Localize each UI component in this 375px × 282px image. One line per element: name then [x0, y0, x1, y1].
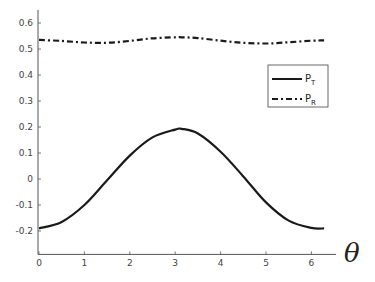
- x-tick-label: 5: [263, 258, 269, 268]
- y-tick-label: -0.1: [15, 200, 33, 210]
- x-axis-label: θ: [344, 238, 360, 268]
- x-tick-label: 4: [218, 258, 224, 268]
- x-tick-label: 3: [172, 258, 178, 268]
- y-tick-label: 0: [27, 174, 33, 184]
- y-tick-label: 0.2: [19, 122, 33, 132]
- x-tick-label: 0: [36, 258, 42, 268]
- y-tick-label: 0.6: [19, 18, 34, 28]
- y-tick-label: 0.1: [19, 148, 33, 158]
- legend-box: [268, 65, 328, 107]
- series-line-p-t: [39, 128, 324, 228]
- axes: [38, 10, 336, 254]
- x-tick-label: 1: [82, 258, 88, 268]
- x-tick-label: 2: [127, 258, 133, 268]
- y-tick-label: 0.5: [19, 44, 33, 54]
- line-chart: -0.2-0.100.10.20.30.40.50.60123456 θ PTP…: [0, 0, 375, 282]
- legend: PTPR: [268, 65, 328, 107]
- series-line-p-r: [39, 37, 324, 43]
- y-tick-label: 0.4: [19, 70, 34, 80]
- y-tick-label: -0.2: [15, 226, 33, 236]
- x-tick-label: 6: [309, 258, 315, 268]
- y-tick-label: 0.3: [19, 96, 33, 106]
- axis-ticks: -0.2-0.100.10.20.30.40.50.60123456: [15, 18, 314, 268]
